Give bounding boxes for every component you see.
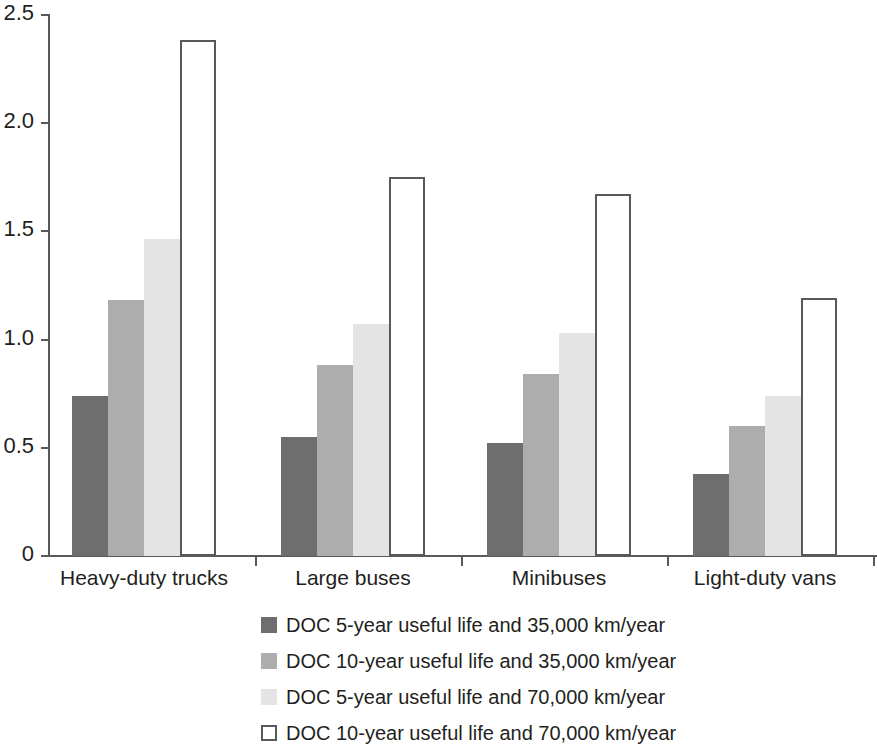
legend-label-series-1: DOC 5-year useful life and 35,000 km/yea… [286,613,665,637]
x-axis-label-heavy-duty-trucks: Heavy-duty trucks [44,565,244,591]
legend-label-series-3: DOC 5-year useful life and 70,000 km/yea… [286,685,665,709]
bar-light-duty-vans-series-4 [801,298,837,556]
legend-item-3: DOC 5-year useful life and 70,000 km/yea… [261,680,665,714]
x-axis-label-large-buses: Large buses [253,565,453,591]
bar-light-duty-vans-series-2 [729,426,765,556]
legend-swatch-series-3 [261,689,277,705]
plot-area: 2.5 2.0 1.5 1.0 0.5 0 Heavy-duty trucks [0,0,877,600]
bar-group-light-duty-vans [0,0,877,556]
x-axis-label-light-duty-vans: Light-duty vans [665,565,865,591]
chart-legend: DOC 5-year useful life and 35,000 km/yea… [0,604,877,748]
legend-item-1: DOC 5-year useful life and 35,000 km/yea… [261,608,665,642]
legend-item-4: DOC 10-year useful life and 70,000 km/ye… [261,716,676,748]
legend-label-series-4: DOC 10-year useful life and 70,000 km/ye… [286,721,676,745]
bar-chart: 2.5 2.0 1.5 1.0 0.5 0 Heavy-duty trucks [0,0,877,748]
legend-item-2: DOC 10-year useful life and 35,000 km/ye… [261,644,676,678]
bar-light-duty-vans-series-1 [693,474,729,556]
legend-swatch-series-4 [261,725,277,741]
bar-light-duty-vans-series-3 [765,396,801,556]
legend-swatch-series-1 [261,617,277,633]
x-tick-4 [873,556,875,566]
legend-swatch-series-2 [261,653,277,669]
x-axis-label-minibuses: Minibuses [459,565,659,591]
legend-label-series-2: DOC 10-year useful life and 35,000 km/ye… [286,649,676,673]
